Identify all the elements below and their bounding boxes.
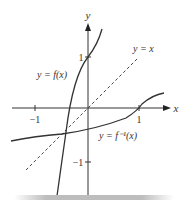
curve-f-label: y = f(x) xyxy=(36,69,68,81)
y-tick-label-neg1: −1 xyxy=(73,157,84,168)
graph: y x −1 1 1 −1 y = f(x) y = f⁻¹(x) y = x xyxy=(0,0,192,200)
x-tick-label-neg1: −1 xyxy=(30,114,41,125)
x-tick-label-1: 1 xyxy=(137,114,142,125)
y-axis-arrow-icon xyxy=(85,23,91,31)
x-axis-arrow-icon xyxy=(163,105,171,111)
y-axis-label: y xyxy=(85,9,91,21)
x-axis xyxy=(12,105,171,111)
x-axis-label: x xyxy=(173,102,179,114)
y-axis xyxy=(85,23,91,195)
identity-label: y = x xyxy=(132,43,154,54)
bottom-shadow xyxy=(14,195,174,200)
curve-f-inverse-label: y = f⁻¹(x) xyxy=(98,130,138,142)
y-tick-label-1: 1 xyxy=(79,52,84,63)
